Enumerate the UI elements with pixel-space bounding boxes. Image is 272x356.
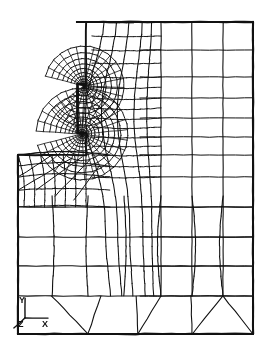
fe-mesh-canvas [0, 0, 272, 356]
axis-label-z: Z [18, 320, 24, 329]
axis-label-x: X [42, 320, 48, 329]
axis-label-y: Y [19, 296, 25, 305]
fe-mesh-figure: Y Z X [0, 0, 272, 356]
